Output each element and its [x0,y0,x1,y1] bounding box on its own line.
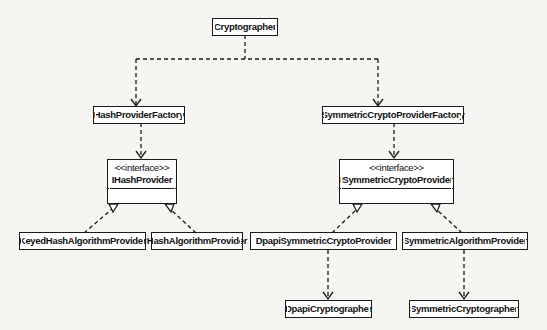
class-symmetric-algorithm-provider: SymmetricAlgorithmProvider [402,232,528,250]
realization-triangle-icon [431,204,440,212]
realization-triangle-icon [165,204,174,212]
class-name: SymmetricCryptographer [410,302,518,316]
class-name: Cryptographer [214,20,276,34]
class-name: KeyedHashAlgorithmProvider [19,234,146,248]
class-symmetric-cryptographer: SymmetricCryptographer [409,300,519,318]
class-cryptographer: Cryptographer [212,18,278,36]
class-name: SymmetricCryptoProviderFactory [321,108,464,122]
class-name: SymmetricAlgorithmProvider [403,234,527,248]
class-name: HashAlgorithmProvider [147,234,247,248]
connector-lines [0,0,547,330]
class-name: DpapiCryptographer [285,302,372,316]
class-name: HashProviderFactory [94,108,184,122]
realization-line [436,209,462,233]
class-dpapi-cryptographer: DpapiCryptographer [285,300,372,318]
class-name: DpapiSymmetricCryptoProvider [256,234,392,248]
realization-triangle-icon [109,204,118,212]
stereotype-label: <<interface>> [108,162,176,174]
class-dpapi-symmetric-crypto-provider: DpapiSymmetricCryptoProvider [250,232,397,250]
class-keyed-hash-algorithm-provider: KeyedHashAlgorithmProvider [19,232,146,250]
interface-isymmetric-crypto-provider: <<interface>> ISymmetricCryptoProvider [339,159,454,204]
realization-line [84,209,112,233]
interface-name: IHashProvider [108,174,176,186]
class-hash-algorithm-provider: HashAlgorithmProvider [151,232,243,250]
realization-line [332,209,357,233]
class-symmetric-crypto-provider-factory: SymmetricCryptoProviderFactory [322,106,464,124]
interface-name: ISymmetricCryptoProvider [340,174,453,186]
interface-ihash-provider: <<interface>> IHashProvider [107,159,177,204]
class-hash-provider-factory: HashProviderFactory [93,106,185,124]
stereotype-label: <<interface>> [340,162,453,174]
realization-line [170,209,196,233]
